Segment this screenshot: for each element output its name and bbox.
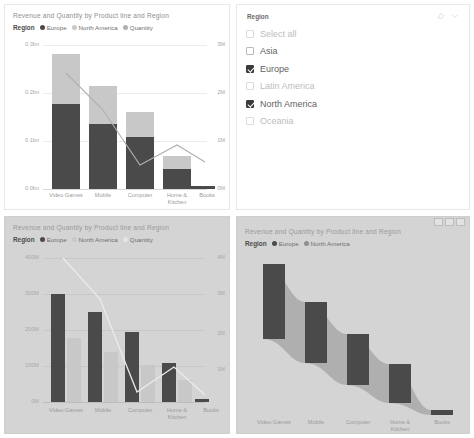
checkbox-asia[interactable] [246, 47, 254, 55]
x-axis-label-mobile: Mobile [83, 407, 123, 414]
ribbon-series [237, 217, 470, 434]
slicer-label-europe: Europe [260, 64, 289, 74]
x-axis-label-mobile: Mobile [83, 192, 123, 199]
slicer-item-select-all[interactable]: Select all [246, 25, 461, 43]
bar-books-europe-small[interactable] [187, 186, 215, 189]
slicer-item-europe[interactable]: Europe [246, 60, 461, 78]
slicer-item-list: Select all Asia Europe Latin America Nor… [246, 25, 461, 130]
slicer-title: Region [247, 13, 269, 20]
visual-revenue-quantity-clustered[interactable]: Revenue and Quantity by Product line and… [4, 216, 230, 434]
x-axis-label-books: Books [187, 192, 227, 199]
quantity-line-series [5, 217, 230, 434]
slicer-item-oceania[interactable]: Oceania [246, 113, 461, 131]
slicer-item-latin-america[interactable]: Latin America [246, 78, 461, 96]
x-axis-label-home-kitchen: Home & Kitchen [380, 419, 420, 433]
x-axis-label-mobile: Mobile [296, 419, 336, 426]
checkbox-select-all[interactable] [246, 30, 254, 38]
slicer-label-north-america: North America [260, 99, 317, 109]
slicer-label-latin-america: Latin America [260, 81, 315, 91]
slicer-label-asia: Asia [260, 46, 278, 56]
x-axis-label-video-games: Video Games [254, 419, 294, 426]
slicer-label-oceania: Oceania [260, 116, 294, 126]
quantity-line-series [5, 5, 230, 210]
eraser-icon[interactable] [437, 12, 445, 20]
chevron-down-icon[interactable] [451, 12, 459, 20]
region-slicer[interactable]: Region Select all Asia Europe [236, 4, 470, 210]
slicer-item-north-america[interactable]: North America [246, 95, 461, 113]
report-canvas: Revenue and Quantity by Product line and… [0, 0, 474, 438]
slicer-label-select-all: Select all [260, 29, 297, 39]
x-axis-label-video-games: Video Games [46, 407, 86, 414]
checkbox-oceania[interactable] [246, 117, 254, 125]
slicer-header-icons [437, 12, 459, 20]
x-axis-label-computer: Computer [120, 192, 160, 199]
visual-revenue-quantity-stacked[interactable]: Revenue and Quantity by Product line and… [4, 4, 230, 210]
visual-revenue-quantity-ribbon[interactable]: Revenue and Quantity by Product line and… [236, 216, 470, 434]
x-axis-label-computer: Computer [338, 419, 378, 426]
checkbox-europe[interactable] [246, 65, 254, 73]
x-axis-label-video-games: Video Games [46, 192, 86, 199]
checkbox-north-america[interactable] [246, 100, 254, 108]
slicer-item-asia[interactable]: Asia [246, 43, 461, 61]
checkbox-latin-america[interactable] [246, 82, 254, 90]
x-axis-label-computer: Computer [120, 407, 160, 414]
x-axis-label-books: Books [422, 419, 462, 426]
x-axis-label-books: Books [191, 407, 230, 414]
